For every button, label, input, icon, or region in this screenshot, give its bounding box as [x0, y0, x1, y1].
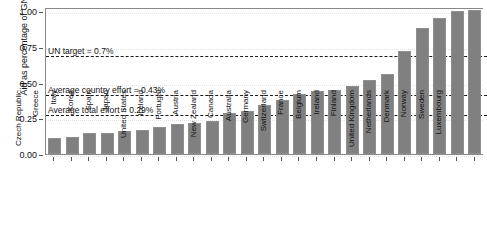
- x-axis-tick-label-text: Canada: [206, 90, 215, 170]
- x-axis-tick-label-text: Czech Republic: [14, 90, 23, 170]
- x-axis-tick-label: Canada: [206, 124, 215, 204]
- bar: [468, 10, 481, 154]
- x-axis-tick-label-text: United Kingdom: [347, 90, 356, 170]
- y-axis-tick-label: 0.75: [19, 43, 37, 53]
- x-axis-tick-label: Denmark: [382, 124, 391, 204]
- chart-container: Aid as percentage of GNI 0.000.250.500.7…: [0, 0, 487, 244]
- y-axis-tick-mark: [39, 48, 43, 49]
- x-axis-tick-label-text: Japan: [101, 90, 110, 170]
- x-axis-tick-label: Sweden: [417, 124, 426, 204]
- x-axis-tick-label-text: Belgium: [294, 90, 303, 170]
- x-axis-tick-mark: [456, 157, 457, 161]
- x-axis-tick-label-text: Australia: [224, 90, 233, 170]
- x-axis-tick-label-text: New Zealand: [189, 90, 198, 170]
- x-axis-tick-label: Spain: [84, 124, 93, 204]
- x-axis-tick-label: Australia: [224, 124, 233, 204]
- x-axis-tick-label: Greece: [31, 124, 40, 204]
- x-axis-tick-label: Japan: [101, 124, 110, 204]
- x-axis-tick-label: Korea: [66, 124, 75, 204]
- x-axis-labels: Czech RepublicGreeceItalyKoreaSpainJapan…: [45, 157, 483, 244]
- x-axis-tick-label: New Zealand: [189, 124, 198, 204]
- x-axis-tick-label: Austria: [171, 124, 180, 204]
- x-axis-tick-label: Belgium: [294, 124, 303, 204]
- x-axis-tick-label: United States: [119, 124, 128, 204]
- x-axis-tick-label-text: Denmark: [382, 90, 391, 170]
- x-axis-tick-label: United Kingdom: [347, 124, 356, 204]
- x-axis-tick-label: Portugal: [154, 124, 163, 204]
- x-axis-tick-label-text: Sweden: [417, 90, 426, 170]
- x-axis-tick-label: Switzerland: [259, 124, 268, 204]
- x-axis-tick-label: Netherlands: [364, 124, 373, 204]
- x-axis-tick-label: Iceland: [136, 124, 145, 204]
- x-axis-tick-label: France: [276, 124, 285, 204]
- x-axis-tick-label-text: Italy: [49, 90, 58, 170]
- y-axis-tick-label: 0.50: [19, 79, 37, 89]
- x-axis-tick-label: Norway: [399, 124, 408, 204]
- x-axis-tick-label: Czech Republic: [14, 124, 23, 204]
- bar: [451, 11, 464, 154]
- x-axis-tick-label-text: France: [276, 90, 285, 170]
- x-axis-tick-label-text: United States: [119, 90, 128, 170]
- y-axis-tick-mark: [39, 12, 43, 13]
- x-axis-tick-label-text: Luxembourg: [434, 90, 443, 170]
- x-axis-tick-label: Italy: [49, 124, 58, 204]
- x-axis-tick-label-text: Iceland: [136, 90, 145, 170]
- x-axis-tick-label: Ireland: [312, 124, 321, 204]
- x-axis-tick-label-text: Netherlands: [364, 90, 373, 170]
- x-axis-tick-mark: [474, 157, 475, 161]
- x-axis-tick-label-text: Austria: [171, 90, 180, 170]
- x-axis-tick-label-text: Germany: [241, 90, 250, 170]
- x-axis-tick-label: Finland: [329, 124, 338, 204]
- x-axis-tick-label-text: Finland: [329, 90, 338, 170]
- x-axis-tick-label-text: Portugal: [154, 90, 163, 170]
- x-axis-tick-label-text: Switzerland: [259, 90, 268, 170]
- x-axis-tick: Luxembourg: [468, 157, 481, 244]
- x-axis-tick: Sweden: [450, 157, 463, 244]
- x-axis-tick-label-text: Spain: [84, 90, 93, 170]
- y-axis-tick-mark: [39, 84, 43, 85]
- x-axis-tick-label-text: Greece: [31, 90, 40, 170]
- x-axis-tick-label-text: Ireland: [312, 90, 321, 170]
- x-axis-tick-label-text: Norway: [399, 90, 408, 170]
- x-axis-tick-label: Luxembourg: [434, 124, 443, 204]
- x-axis-tick-label: Germany: [241, 124, 250, 204]
- y-axis-tick-label: 1.00: [19, 7, 37, 17]
- x-axis-tick-label-text: Korea: [66, 90, 75, 170]
